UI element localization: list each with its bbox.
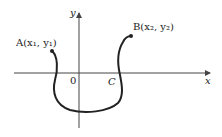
point-b-label: B(x₂, y₂) (133, 21, 174, 32)
curve-diagram: A(x₁, y₁) B(x₂, y₂) C 0 x y (0, 0, 222, 137)
y-axis-label: y (69, 7, 76, 18)
point-a-label: A(x₁, y₁) (15, 37, 57, 48)
x-axis-label: x (205, 75, 211, 86)
point-c-label: C (108, 76, 116, 87)
point-a-marker (50, 49, 54, 53)
curve-a-to-b (52, 36, 131, 112)
point-b-marker (129, 34, 133, 38)
origin-label: 0 (70, 75, 76, 86)
